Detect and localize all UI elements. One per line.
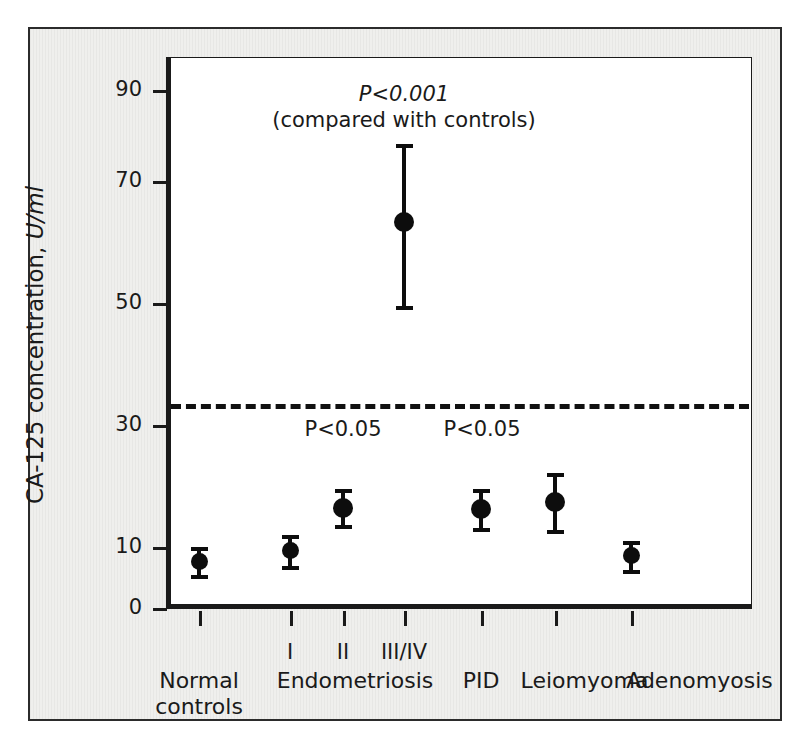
error-bar-cap-upper: [335, 489, 352, 493]
y-axis-title: CA-125 concentration, U/ml: [22, 130, 48, 560]
y-tick-label-0: 0: [102, 597, 142, 618]
data-marker: [282, 542, 299, 559]
annotation-p-value-pid: P<0.05: [427, 417, 537, 443]
y-axis-title-main: CA-125 concentration,: [22, 239, 48, 504]
y-tick-mark-0: [153, 608, 167, 611]
error-bar-cap-lower: [191, 575, 208, 579]
y-tick-mark-30: [153, 425, 167, 428]
error-bar-cap-upper: [191, 547, 208, 551]
data-point-leiomyoma: [545, 468, 565, 540]
x-label-stage-iii-iv: III/IV: [364, 640, 444, 664]
error-bar-cap-upper: [623, 541, 640, 545]
y-tick-mark-90: [153, 90, 167, 93]
x-label-normal-controls: Normal controls: [134, 668, 264, 721]
data-point-pid: [471, 483, 491, 538]
threshold-line: [171, 404, 749, 409]
error-bar-cap-lower: [396, 306, 413, 310]
data-marker: [623, 547, 640, 564]
error-bar-cap-upper: [282, 535, 299, 539]
error-bar-cap-lower: [473, 528, 490, 532]
data-point-adenomyosis: [621, 534, 641, 580]
data-marker: [333, 498, 353, 518]
error-bar-cap-lower: [335, 525, 352, 529]
x-label-adenomyosis: Adenomyosis: [607, 668, 792, 693]
annotation-p-value-ii: P<0.05: [288, 417, 398, 443]
x-tick-normal-controls: [199, 611, 202, 626]
y-axis-title-unit: U/ml: [22, 186, 48, 239]
y-tick-label-90: 90: [102, 79, 142, 100]
x-tick-leiomyoma: [555, 611, 558, 626]
error-bar-cap-upper: [547, 473, 564, 477]
x-tick-endometriosis-ii: [343, 611, 346, 626]
error-bar-cap-lower: [282, 566, 299, 570]
data-marker: [545, 492, 565, 512]
x-label-normal-controls-line2: controls: [134, 694, 264, 720]
x-tick-endometriosis-iii-iv: [404, 611, 407, 626]
annotation-p-value-text: P<0.001: [264, 82, 544, 108]
x-tick-pid: [481, 611, 484, 626]
y-tick-label-30: 30: [102, 414, 142, 435]
data-point-endometriosis-ii: [333, 483, 353, 535]
error-bar-cap-lower: [547, 530, 564, 534]
error-bar-cap-upper: [396, 144, 413, 148]
x-label-stage-ii: II: [318, 640, 368, 664]
y-tick-label-10: 10: [102, 536, 142, 557]
x-label-normal-controls-line1: Normal: [134, 668, 264, 694]
y-tick-label-70: 70: [102, 170, 142, 191]
data-marker: [394, 212, 414, 232]
data-marker: [191, 553, 208, 570]
x-tick-endometriosis-i: [290, 611, 293, 626]
data-point-normal-controls: [189, 540, 209, 585]
y-tick-label-50: 50: [102, 292, 142, 313]
x-tick-adenomyosis: [631, 611, 634, 626]
x-label-endometriosis: Endometriosis: [265, 668, 445, 693]
y-tick-mark-50: [153, 303, 167, 306]
plot-area: [166, 57, 752, 609]
data-point-endometriosis-iii-iv: [394, 140, 414, 318]
error-bar-cap-lower: [623, 570, 640, 574]
data-marker: [471, 499, 491, 519]
y-tick-mark-10: [153, 547, 167, 550]
y-tick-mark-70: [153, 181, 167, 184]
annotation-p-value-iii-iv: P<0.001 (compared with controls): [264, 82, 544, 133]
error-bar-cap-upper: [473, 489, 490, 493]
x-label-stage-i: I: [265, 640, 315, 664]
data-point-endometriosis-i: [280, 528, 300, 576]
figure-panel: 90 70 50 30 10 0 CA-125 concentration, U…: [0, 0, 803, 750]
annotation-comparison-text: (compared with controls): [264, 108, 544, 134]
